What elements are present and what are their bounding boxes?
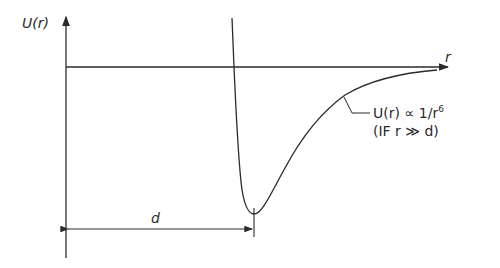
distance-label: d bbox=[151, 210, 160, 226]
x-axis-label: r bbox=[445, 49, 452, 65]
y-axis-label: U(r) bbox=[22, 15, 49, 31]
annotation-leader bbox=[344, 97, 370, 113]
potential-energy-diagram: U(r) r d U(r) ∝ 1/r6 (IF r ≫ d) bbox=[0, 0, 500, 268]
annotation-line1: U(r) ∝ 1/r6 bbox=[373, 104, 444, 121]
annotation-line2: (IF r ≫ d) bbox=[373, 123, 439, 139]
